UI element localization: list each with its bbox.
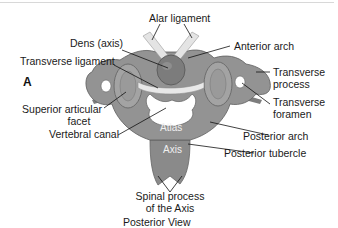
label-dens: Dens (axis) (70, 37, 123, 49)
view-caption: Posterior View (123, 216, 191, 228)
label-transverse-process: Transverse process (273, 66, 325, 90)
atlas-inline-label: Atlas (160, 122, 182, 133)
label-spinal-process-line1: Spinal process (130, 190, 210, 202)
transverse-foramen-right (235, 76, 245, 88)
label-spinal-process-line2: of the Axis (130, 202, 210, 214)
label-superior-articular-facet: Superior articular facet (16, 103, 102, 127)
label-superior-articular-line2: facet (56, 115, 102, 127)
label-alar-ligament: Alar ligament (149, 12, 210, 24)
figure-letter: A (23, 75, 32, 89)
label-posterior-tubercle: Posterior tubercle (224, 147, 306, 159)
label-transverse-foramen-line1: Transverse (273, 96, 325, 108)
label-transverse-ligament: Transverse ligament (20, 55, 115, 67)
label-transverse-foramen-line2: foramen (273, 108, 325, 120)
label-superior-articular-line1: Superior articular (16, 103, 102, 115)
label-anterior-arch: Anterior arch (234, 40, 294, 52)
dens (157, 55, 185, 85)
transverse-foramen-left (101, 80, 111, 92)
label-vertebral-canal: Vertebral canal (49, 128, 119, 140)
label-spinal-process: Spinal process of the Axis (130, 190, 210, 214)
label-transverse-foramen: Transverse foramen (273, 96, 325, 120)
label-transverse-process-line2: process (273, 78, 325, 90)
label-posterior-arch: Posterior arch (243, 130, 308, 142)
label-transverse-process-line1: Transverse (273, 66, 325, 78)
axis-inline-label: Axis (163, 144, 182, 155)
